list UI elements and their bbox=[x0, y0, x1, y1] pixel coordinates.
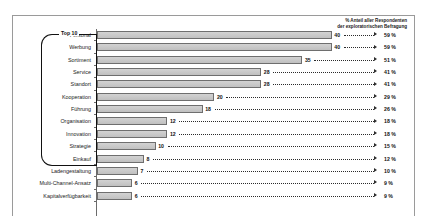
leader-arrow-icon bbox=[374, 94, 377, 98]
bar-value-label: 7 bbox=[141, 166, 144, 176]
chart-frame: % Anteil aller Respondenten der explorat… bbox=[12, 15, 415, 216]
leader-line bbox=[153, 159, 374, 160]
percent-label: 51 % bbox=[384, 55, 396, 65]
leader-arrow-icon bbox=[374, 143, 377, 147]
leader-arrow-icon bbox=[374, 106, 377, 110]
bar bbox=[97, 80, 261, 88]
bar-value-label: 10 bbox=[158, 141, 164, 151]
axis-tick bbox=[94, 201, 97, 202]
percent-label: 26 % bbox=[384, 104, 396, 114]
leader-arrow-icon bbox=[374, 32, 377, 36]
leader-line bbox=[273, 84, 374, 85]
leader-arrow-icon bbox=[374, 180, 377, 184]
percent-label: 29 % bbox=[384, 92, 396, 102]
bar bbox=[97, 43, 332, 51]
bar bbox=[97, 93, 214, 101]
leader-arrow-icon bbox=[374, 119, 377, 123]
leader-line bbox=[179, 121, 374, 122]
percent-label: 9 % bbox=[384, 191, 393, 201]
leader-arrow-icon bbox=[374, 168, 377, 172]
bar-value-label: 40 bbox=[334, 30, 340, 40]
bar-value-label: 18 bbox=[205, 104, 211, 114]
percent-label: 59 % bbox=[384, 42, 396, 52]
leader-line bbox=[344, 47, 374, 48]
bar-value-label: 12 bbox=[170, 129, 176, 139]
category-label: Kapitalverfügbarkeit bbox=[12, 190, 91, 202]
percent-label: 18 % bbox=[384, 116, 396, 126]
bar-value-label: 35 bbox=[305, 55, 311, 65]
top10-bracket-right-edge bbox=[96, 34, 97, 166]
bar bbox=[97, 142, 156, 150]
top10-bracket bbox=[41, 34, 97, 166]
leader-arrow-icon bbox=[374, 82, 377, 86]
leader-line bbox=[273, 72, 374, 73]
leader-arrow-icon bbox=[374, 156, 377, 160]
chart-row: Ladengestaltung710 % bbox=[13, 165, 415, 177]
percent-label: 41 % bbox=[384, 67, 396, 77]
category-label: Multi-Channel-Ansatz bbox=[12, 177, 91, 189]
leader-line bbox=[168, 146, 374, 147]
leader-arrow-icon bbox=[374, 193, 377, 197]
bar bbox=[97, 68, 261, 76]
bar bbox=[97, 179, 132, 187]
bar-value-label: 6 bbox=[135, 178, 138, 188]
leader-line bbox=[141, 196, 374, 197]
bar-value-label: 6 bbox=[135, 191, 138, 201]
bar bbox=[97, 192, 132, 200]
percent-label: 10 % bbox=[384, 166, 396, 176]
bar bbox=[97, 31, 332, 39]
leader-arrow-icon bbox=[374, 69, 377, 73]
bar bbox=[97, 130, 167, 138]
category-label: Ladengestaltung bbox=[12, 165, 91, 177]
percent-label: 18 % bbox=[384, 129, 396, 139]
top10-bracket-label: Top 10 bbox=[59, 30, 79, 36]
leader-arrow-icon bbox=[374, 57, 377, 61]
leader-arrow-icon bbox=[374, 45, 377, 49]
percent-label: 41 % bbox=[384, 79, 396, 89]
bar-value-label: 12 bbox=[170, 116, 176, 126]
bar-value-label: 28 bbox=[264, 67, 270, 77]
leader-line bbox=[215, 109, 374, 110]
leader-line bbox=[314, 60, 374, 61]
percent-label: 9 % bbox=[384, 178, 393, 188]
bar-value-label: 28 bbox=[264, 79, 270, 89]
leader-arrow-icon bbox=[374, 131, 377, 135]
percent-label: 15 % bbox=[384, 141, 396, 151]
leader-line bbox=[344, 35, 374, 36]
chart-row: Multi-Channel-Ansatz69 % bbox=[13, 177, 415, 189]
bar bbox=[97, 155, 144, 163]
bar bbox=[97, 105, 203, 113]
bar bbox=[97, 167, 138, 175]
leader-line bbox=[179, 134, 374, 135]
percent-label: 59 % bbox=[384, 30, 396, 40]
chart-screenshot: · · % Anteil aller Respondenten der expl… bbox=[0, 0, 427, 216]
leader-line bbox=[141, 183, 374, 184]
percent-label: 12 % bbox=[384, 154, 396, 164]
leader-line bbox=[147, 171, 374, 172]
bar bbox=[97, 117, 167, 125]
leader-line bbox=[226, 97, 374, 98]
clipped-title-text: · · bbox=[163, 0, 178, 2]
chart-row: Kapitalverfügbarkeit69 % bbox=[13, 190, 415, 202]
bar-value-label: 40 bbox=[334, 42, 340, 52]
bar bbox=[97, 56, 302, 64]
bar-value-label: 20 bbox=[217, 92, 223, 102]
plot-area: Personal4059 %Werbung4059 %Sortiment3551… bbox=[13, 29, 415, 216]
bar-value-label: 8 bbox=[146, 154, 149, 164]
